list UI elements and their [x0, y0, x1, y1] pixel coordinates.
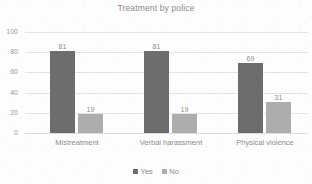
bar-group-physical-violence: 69 31 Physical violence: [213, 32, 307, 133]
bar-value-physical-violence-yes: 69: [231, 55, 271, 62]
bar-value-mistreatment-yes: 81: [43, 43, 83, 50]
chart-legend: Yes No: [0, 167, 312, 176]
ytick-label-0: 0: [0, 129, 18, 136]
legend-label-no: No: [169, 167, 179, 176]
bar-verbal-harassment-yes[interactable]: [144, 51, 169, 133]
ytick-label-40: 40: [0, 89, 18, 96]
bar-mistreatment-yes[interactable]: [50, 51, 75, 133]
ytick-label-60: 60: [0, 68, 18, 75]
ytick-label-80: 80: [0, 48, 18, 55]
plot-area: 100 80 60 40 20 0 81 19 Mistreatment 81 …: [25, 32, 308, 133]
bar-physical-violence-no[interactable]: [266, 102, 291, 133]
legend-swatch-icon-no: [162, 169, 167, 174]
chart-title: Treatment by police: [0, 3, 312, 13]
bar-chart: Treatment by police 100 80 60 40 20 0 81…: [0, 0, 312, 184]
gridline-0: [25, 133, 308, 134]
bar-mistreatment-no[interactable]: [78, 114, 103, 133]
bar-value-verbal-harassment-no: 19: [165, 106, 205, 113]
bar-value-physical-violence-no: 31: [259, 94, 299, 101]
bar-group-verbal-harassment: 81 19 Verbal harassment: [119, 32, 213, 133]
ytick-label-100: 100: [0, 28, 18, 35]
legend-item-no[interactable]: No: [162, 167, 179, 176]
legend-swatch-icon-yes: [133, 169, 138, 174]
legend-label-yes: Yes: [141, 167, 153, 176]
ytick-label-20: 20: [0, 109, 18, 116]
bar-value-verbal-harassment-yes: 81: [137, 43, 177, 50]
bar-verbal-harassment-no[interactable]: [172, 114, 197, 133]
category-label-physical-violence: Physical violence: [205, 138, 312, 147]
legend-item-yes[interactable]: Yes: [133, 167, 153, 176]
bar-group-mistreatment: 81 19 Mistreatment: [25, 32, 119, 133]
bar-value-mistreatment-no: 19: [71, 106, 111, 113]
